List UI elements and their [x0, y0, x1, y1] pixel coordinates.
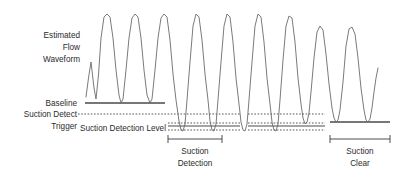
diagram-canvas: Estimated Flow Waveform Baseline Suction…: [0, 0, 401, 175]
flow-waveform-diagram: Estimated Flow Waveform Baseline Suction…: [0, 0, 401, 175]
baseline-label: Baseline: [46, 99, 78, 108]
estimated-flow-waveform-label-line3: Waveform: [43, 55, 80, 64]
suction-detection-region-label-line1: Suction: [181, 147, 209, 156]
estimated-flow-waveform-label-line1: Estimated: [44, 31, 81, 40]
estimated-flow-waveform-label-line2: Flow: [63, 43, 80, 52]
labels-group: Estimated Flow Waveform Baseline Suction…: [24, 31, 374, 168]
suction-detection-region-label-line2: Detection: [178, 159, 213, 168]
suction-clear-region-label-line1: Suction: [346, 147, 374, 156]
suction-clear-region-label-line2: Clear: [350, 159, 370, 168]
suction-detection-level-label: Suction Detection Level: [80, 124, 166, 133]
estimated-flow-waveform-path: [86, 14, 378, 131]
suction-detect-trigger-label-line2: Trigger: [51, 122, 77, 131]
region-brackets-group: [168, 135, 390, 143]
suction-detect-trigger-label-line1: Suction Detect: [24, 110, 78, 119]
